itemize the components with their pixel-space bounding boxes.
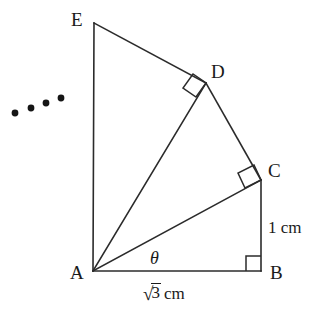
label-bc-length: 1 cm <box>268 219 302 236</box>
vertex-label-d: D <box>211 62 225 81</box>
angle-theta-label: θ <box>150 249 159 267</box>
right-angle-marks <box>183 74 261 271</box>
continuation-dot <box>28 105 35 112</box>
unit-label: cm <box>164 284 185 303</box>
figure-segments <box>93 23 261 271</box>
vertex-label-b: B <box>270 263 283 282</box>
label-ab-length: √3 cm <box>143 284 185 303</box>
vertex-label-c: C <box>268 161 281 180</box>
segment-a-e <box>93 23 94 271</box>
vertex-label-e: E <box>71 10 83 29</box>
segment-a-d <box>93 83 206 271</box>
right-angle-c <box>238 165 261 188</box>
right-angle-b <box>246 256 261 271</box>
square-root-expression: √3 <box>143 284 161 303</box>
continuation-dot <box>58 95 65 102</box>
radicand-value: 3 <box>151 283 161 301</box>
continuation-dot <box>12 110 19 117</box>
vertex-label-a: A <box>70 263 84 282</box>
geometry-figure: E D C B A θ 1 cm √3 cm <box>0 0 324 315</box>
continuation-dot <box>43 100 50 107</box>
segment-d-e <box>94 23 206 83</box>
continuation-dots <box>12 95 65 117</box>
segment-a-c <box>93 180 261 271</box>
